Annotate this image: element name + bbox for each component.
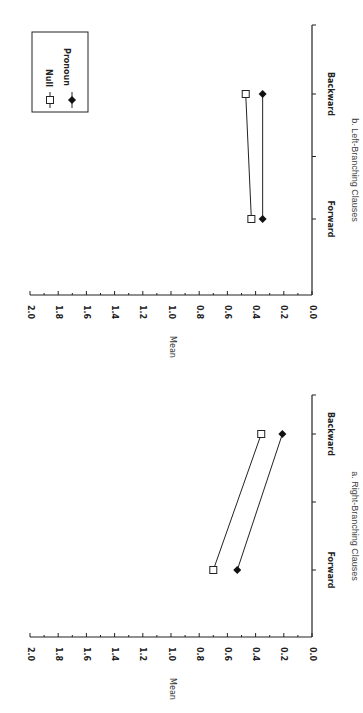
square-marker — [210, 567, 217, 574]
tick-label: 2.0 — [26, 647, 35, 662]
tick-label: 1.2 — [138, 647, 147, 661]
diamond-marker — [259, 90, 267, 98]
chart-caption: a. Right-Branching Clauses — [350, 471, 360, 581]
tick-label: 1.6 — [82, 305, 91, 320]
tick-label: 2.0 — [26, 305, 35, 320]
tick-label: 0.4 — [251, 647, 260, 662]
chart-caption: b. Left-Branching Clauses — [350, 118, 360, 222]
category-label: Backward — [326, 72, 335, 116]
tick-label: 1.0 — [167, 305, 176, 320]
square-marker — [248, 216, 255, 223]
diamond-marker — [259, 215, 267, 223]
tick-label: 1.2 — [138, 305, 147, 319]
legend: NullPronoun — [32, 32, 88, 112]
tick-label: 1.0 — [167, 647, 176, 662]
chart-a: 0.00.20.40.60.81.01.21.41.61.82.0Forward… — [26, 395, 361, 700]
series-line-null — [246, 94, 252, 219]
legend-null: Null — [44, 69, 53, 87]
series-line-pronoun — [237, 434, 282, 570]
legend-pronoun: Pronoun — [62, 48, 71, 86]
tick-label: 0.0 — [308, 305, 317, 320]
tick-label: 1.8 — [54, 647, 63, 662]
series-line-null — [213, 434, 261, 570]
category-label: Forward — [326, 551, 335, 588]
y-axis-label: Mean — [168, 678, 177, 700]
diamond-marker — [233, 566, 241, 574]
square-marker — [47, 97, 54, 104]
tick-label: 1.6 — [82, 647, 91, 662]
tick-label: 1.4 — [110, 305, 119, 320]
square-marker — [242, 91, 249, 98]
tick-label: 0.6 — [223, 647, 232, 662]
y-axis-label: Mean — [168, 336, 177, 358]
tick-label: 0.0 — [308, 647, 317, 662]
tick-label: 0.6 — [223, 305, 232, 320]
category-label: Backward — [326, 412, 335, 456]
tick-label: 1.4 — [110, 647, 119, 662]
tick-label: 0.2 — [279, 647, 288, 661]
figure: 0.00.20.40.60.81.01.21.41.61.82.0Forward… — [0, 0, 363, 713]
category-label: Forward — [326, 200, 335, 237]
tick-label: 0.4 — [251, 305, 260, 320]
tick-label: 0.8 — [195, 305, 204, 320]
diamond-marker — [278, 430, 286, 438]
tick-label: 0.2 — [279, 305, 288, 319]
tick-label: 1.8 — [54, 305, 63, 320]
tick-label: 0.8 — [195, 647, 204, 662]
square-marker — [258, 431, 265, 438]
